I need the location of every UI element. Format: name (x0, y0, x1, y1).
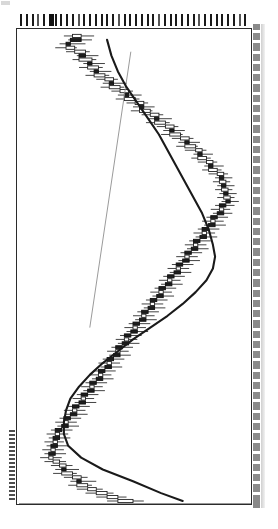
left-axis-label (9, 430, 15, 502)
date-tick-28 (181, 14, 183, 26)
price-tick-38 (253, 420, 260, 423)
date-axis-ticks (16, 14, 254, 27)
date-tick-32 (204, 14, 206, 26)
date-tick-24 (158, 14, 160, 26)
date-tick-4 (43, 14, 45, 26)
date-tick-36 (227, 14, 229, 26)
date-tick-19 (129, 14, 131, 26)
date-tick-30 (193, 14, 195, 26)
price-tick-1 (253, 40, 260, 43)
price-tick-15 (253, 184, 260, 187)
price-tick-5 (253, 81, 260, 84)
price-tick-23 (253, 266, 260, 269)
date-tick-1 (26, 14, 28, 26)
date-tick-29 (187, 14, 189, 26)
price-tick-14 (253, 174, 260, 177)
price-tick-26 (253, 297, 260, 300)
date-tick-38 (239, 14, 241, 26)
price-tick-7 (253, 102, 260, 105)
price-tick-30 (253, 338, 260, 341)
date-tick-22 (147, 14, 149, 26)
price-tick-36 (253, 399, 260, 402)
date-tick-17 (118, 14, 120, 26)
price-tick-32 (253, 358, 260, 361)
price-tick-44 (253, 481, 260, 484)
price-tick-42 (253, 461, 260, 464)
price-axis-shadow (261, 24, 265, 508)
plot-inner (17, 29, 251, 504)
price-tick-25 (253, 287, 260, 290)
date-tick-12 (89, 14, 91, 26)
date-tick-13 (95, 14, 97, 26)
date-tick-6 (55, 14, 57, 26)
date-tick-11 (83, 14, 85, 26)
scan-corner-mark (1, 1, 10, 5)
date-tick-27 (175, 14, 177, 26)
candlestick-figure (0, 0, 278, 529)
price-tick-17 (253, 204, 260, 207)
date-tick-2 (32, 14, 34, 26)
price-tick-34 (253, 379, 260, 382)
price-tick-33 (253, 369, 260, 372)
date-tick-21 (141, 14, 143, 26)
price-tick-6 (253, 92, 260, 95)
date-tick-25 (164, 14, 166, 26)
price-tick-24 (253, 276, 260, 279)
price-tick-18 (253, 215, 260, 218)
plot-area[interactable] (16, 28, 252, 505)
date-tick-3 (37, 14, 39, 26)
price-tick-19 (253, 225, 260, 228)
price-tick-28 (253, 317, 260, 320)
date-tick-31 (198, 14, 200, 26)
chart-canvas (17, 29, 252, 505)
price-tick-9 (253, 122, 260, 125)
price-tick-11 (253, 143, 260, 146)
price-tick-21 (253, 245, 260, 248)
date-tick-37 (233, 14, 235, 26)
date-tick-7 (60, 14, 62, 26)
date-tick-9 (72, 14, 74, 26)
date-tick-35 (221, 14, 223, 26)
price-tick-43 (253, 471, 260, 474)
date-tick-10 (78, 14, 80, 26)
price-tick-20 (253, 235, 260, 238)
date-tick-18 (124, 14, 126, 26)
date-tick-39 (244, 14, 246, 26)
price-tick-39 (253, 430, 260, 433)
price-tick-41 (253, 451, 260, 454)
price-tick-3 (253, 61, 260, 64)
date-tick-23 (152, 14, 154, 26)
date-tick-8 (66, 14, 68, 26)
date-tick-5 (49, 14, 54, 26)
trendline-path (90, 52, 131, 328)
price-tick-37 (253, 410, 260, 413)
price-tick-10 (253, 133, 260, 136)
price-tick-45 (253, 492, 260, 495)
date-tick-15 (106, 14, 108, 26)
price-tick-22 (253, 256, 260, 259)
price-tick-16 (253, 194, 260, 197)
date-tick-20 (135, 14, 137, 26)
price-tick-13 (253, 163, 260, 166)
date-tick-33 (210, 14, 212, 26)
price-tick-2 (253, 51, 260, 54)
date-tick-34 (216, 14, 218, 26)
date-tick-0 (20, 14, 22, 26)
date-tick-14 (101, 14, 103, 26)
price-tick-31 (253, 348, 260, 351)
price-tick-29 (253, 328, 260, 331)
price-tick-40 (253, 440, 260, 443)
price-tick-8 (253, 112, 260, 115)
price-tick-12 (253, 153, 260, 156)
price-axis-ticks (253, 24, 268, 508)
date-tick-26 (170, 14, 172, 26)
date-tick-16 (112, 14, 114, 26)
price-tick-27 (253, 307, 260, 310)
price-tick-0 (253, 30, 260, 33)
price-tick-35 (253, 389, 260, 392)
price-tick-4 (253, 71, 260, 74)
